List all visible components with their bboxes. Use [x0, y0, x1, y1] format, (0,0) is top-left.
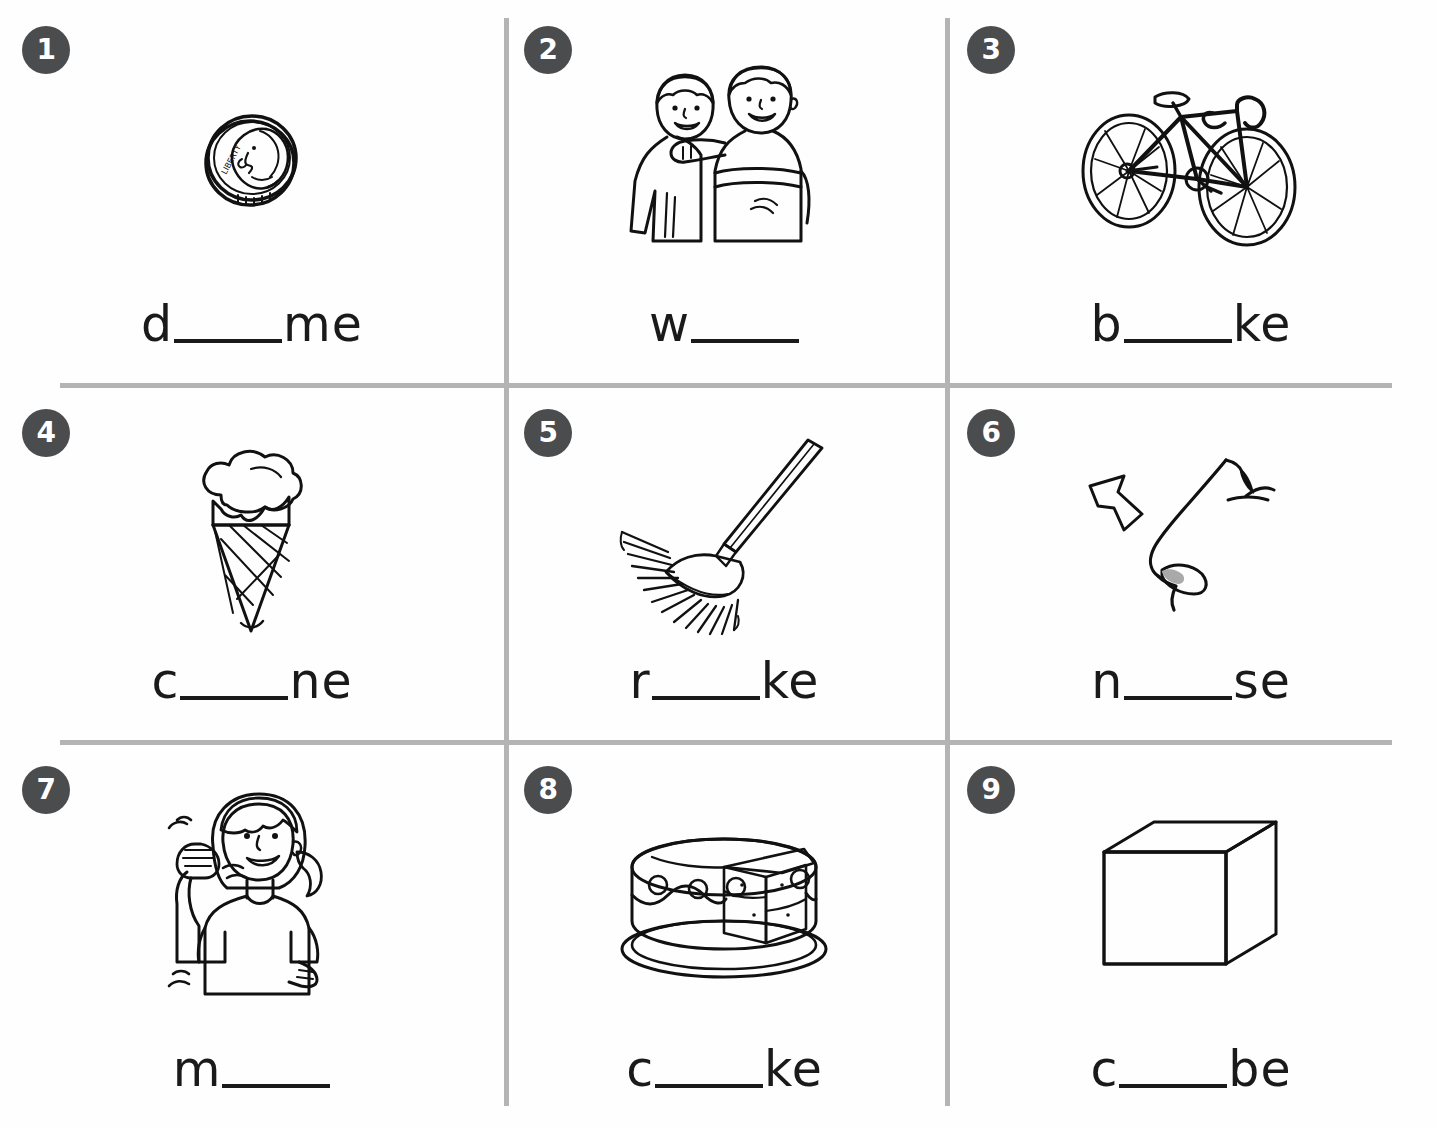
word-blank[interactable]	[1124, 339, 1232, 343]
nose-profile-icon	[945, 429, 1437, 659]
word-suffix: ke	[1233, 296, 1292, 353]
worksheet-item-9[interactable]: 9 cbe	[945, 740, 1437, 1128]
cake-icon	[504, 786, 945, 1016]
worksheet-item-4[interactable]: 4 cne	[0, 383, 504, 740]
word-suffix: ne	[289, 653, 352, 710]
word-prompt: nse	[945, 653, 1437, 710]
word-blank[interactable]	[691, 339, 799, 343]
word-blank[interactable]	[652, 696, 760, 700]
word-blank[interactable]	[1119, 1084, 1227, 1088]
word-suffix: be	[1228, 1041, 1291, 1098]
word-prefix: r	[630, 653, 651, 710]
word-blank[interactable]	[655, 1084, 763, 1088]
worksheet-item-1[interactable]: 1 LIBERTY dme	[0, 0, 504, 383]
word-prompt: cne	[0, 653, 504, 710]
ice-cream-cone-icon	[0, 429, 504, 659]
word-suffix: se	[1233, 653, 1291, 710]
word-prefix: m	[173, 1041, 222, 1098]
leaf-rake-icon	[504, 429, 945, 659]
two-boys-icon	[504, 46, 945, 276]
word-blank[interactable]	[222, 1084, 330, 1088]
word-suffix: ke	[764, 1041, 823, 1098]
word-prompt: m	[0, 1041, 504, 1098]
word-prompt: rke	[504, 653, 945, 710]
word-prefix: c	[1090, 1041, 1118, 1098]
worksheet-item-2[interactable]: 2	[504, 0, 945, 383]
word-prefix: c	[626, 1041, 654, 1098]
worksheet-item-7[interactable]: 7	[0, 740, 504, 1128]
word-blank[interactable]	[174, 339, 282, 343]
worksheet-item-8[interactable]: 8	[504, 740, 945, 1128]
word-prompt: w	[504, 296, 945, 353]
word-blank[interactable]	[1124, 696, 1232, 700]
word-prompt: cbe	[945, 1041, 1437, 1098]
dime-coin-icon: LIBERTY	[0, 46, 504, 276]
worksheet-item-3[interactable]: 3	[945, 0, 1437, 383]
worksheet-page: 1 LIBERTY dme	[0, 0, 1437, 1128]
word-prefix: n	[1091, 653, 1123, 710]
word-prefix: b	[1091, 296, 1123, 353]
girl-pointing-at-self-icon	[0, 786, 504, 1016]
word-suffix: me	[283, 296, 363, 353]
word-prefix: d	[141, 296, 173, 353]
worksheet-item-5[interactable]: 5 rke	[504, 383, 945, 740]
word-prompt: bke	[945, 296, 1437, 353]
word-prompt: dme	[0, 296, 504, 353]
word-blank[interactable]	[180, 696, 288, 700]
word-prefix: w	[649, 296, 690, 353]
cube-icon	[945, 786, 1437, 1016]
worksheet-item-6[interactable]: 6 nse	[945, 383, 1437, 740]
word-suffix: ke	[761, 653, 820, 710]
bicycle-icon	[945, 46, 1437, 276]
word-prefix: c	[151, 653, 179, 710]
worksheet-grid: 1 LIBERTY dme	[0, 0, 1437, 1128]
word-prompt: cke	[504, 1041, 945, 1098]
